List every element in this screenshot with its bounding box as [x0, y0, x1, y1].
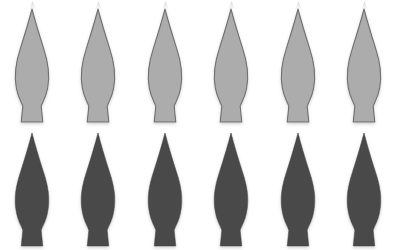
shape-11: [271, 133, 325, 246]
flame-leaf-icon: [281, 9, 315, 122]
shape-5: [271, 9, 325, 122]
shape-grid: [0, 0, 407, 250]
flame-leaf-icon: [15, 133, 49, 246]
flame-leaf-icon: [148, 133, 182, 246]
shape-6: [337, 9, 391, 122]
shape-8: [71, 133, 125, 246]
flame-leaf-icon: [81, 133, 115, 246]
shape-9: [138, 133, 192, 246]
shape-12: [337, 133, 391, 246]
shape-3: [138, 9, 192, 122]
flame-leaf-icon: [15, 9, 49, 122]
flame-leaf-icon: [281, 133, 315, 246]
shape-2: [71, 9, 125, 122]
flame-leaf-icon: [347, 9, 381, 122]
flame-leaf-icon: [214, 9, 248, 122]
flame-leaf-icon: [81, 9, 115, 122]
flame-leaf-icon: [347, 133, 381, 246]
shape-7: [5, 133, 59, 246]
image-canvas: [0, 0, 407, 250]
shape-10: [204, 133, 258, 246]
shape-1: [5, 9, 59, 122]
flame-leaf-icon: [214, 133, 248, 246]
shape-4: [204, 9, 258, 122]
flame-leaf-icon: [148, 9, 182, 122]
